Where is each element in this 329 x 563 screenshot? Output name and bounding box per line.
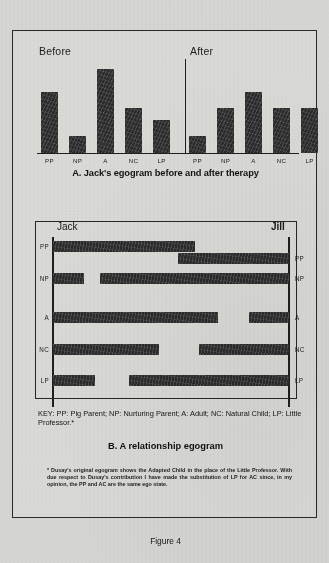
bar-before-a	[97, 69, 114, 153]
bar-after-a	[245, 92, 262, 153]
tick-after-nc: NC	[270, 157, 293, 164]
panel-a-bar-chart: Before After PPNPANCLPPPNPANCLP A. Jack'…	[13, 31, 318, 191]
key-legend-text: KEY: PP: Pig Parent; NP: Nurturing Paren…	[38, 409, 303, 428]
egobar-jill-np	[100, 273, 289, 284]
egogram-left-label-lp: LP	[27, 377, 49, 384]
egogram-left-label-nc: NC	[27, 346, 49, 353]
bar-before-lp	[153, 120, 170, 153]
tick-after-pp: PP	[186, 157, 209, 164]
bar-before-pp	[41, 92, 58, 153]
footnote-text: * Dusay's original egogram shows the Ada…	[47, 467, 292, 488]
tick-after-lp: LP	[298, 157, 321, 164]
panel-b-caption: B. A relationship egogram	[13, 441, 318, 451]
egogram-right-label-nc: NC	[295, 346, 317, 353]
egogram-right-label-pp: PP	[295, 255, 317, 262]
panel-a-caption: A. Jack's egogram before and after thera…	[13, 168, 318, 178]
tick-before-a: A	[94, 157, 117, 164]
bar-after-np	[217, 108, 234, 153]
tick-before-np: NP	[66, 157, 89, 164]
bar-before-np	[69, 136, 86, 153]
panel-a-baseline-axis	[37, 153, 299, 154]
figure-number: Figure 4	[13, 536, 318, 546]
tick-before-lp: LP	[150, 157, 173, 164]
egobar-jack-lp	[53, 375, 95, 386]
panel-a-divider-axis	[185, 59, 186, 154]
egogram-left-label-pp: PP	[27, 243, 49, 250]
bar-after-nc	[273, 108, 290, 153]
bar-before-nc	[125, 108, 142, 153]
egogram-left-label-np: NP	[27, 275, 49, 282]
egobar-jack-a	[53, 312, 218, 323]
bar-after-lp	[301, 108, 318, 153]
tick-after-a: A	[242, 157, 265, 164]
jill-axis-label: Jill	[271, 221, 285, 232]
egogram-right-label-a: A	[295, 314, 317, 321]
egobar-jill-pp	[178, 253, 289, 264]
panel-b-relationship-egogram: Jack Jill PPPPNPNPAANCNCLPLP KEY: PP: Pi…	[13, 199, 318, 421]
panel-a-bars	[13, 31, 318, 153]
tick-before-pp: PP	[38, 157, 61, 164]
egobar-jack-nc	[53, 344, 159, 355]
egobar-jack-np	[53, 273, 84, 284]
bar-after-pp	[189, 136, 206, 153]
egobar-jill-a	[249, 312, 289, 323]
egobar-jack-pp	[53, 241, 195, 252]
tick-before-nc: NC	[122, 157, 145, 164]
figure-frame: Before After PPNPANCLPPPNPANCLP A. Jack'…	[12, 30, 317, 518]
egogram-right-label-lp: LP	[295, 377, 317, 384]
tick-after-np: NP	[214, 157, 237, 164]
egogram-left-label-a: A	[27, 314, 49, 321]
egobar-jill-nc	[199, 344, 289, 355]
egogram-right-label-np: NP	[295, 275, 317, 282]
jack-axis-label: Jack	[57, 221, 78, 232]
egobar-jill-lp	[129, 375, 289, 386]
